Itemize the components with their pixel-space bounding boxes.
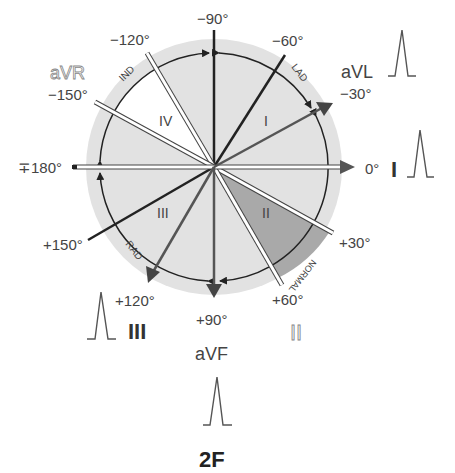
angle-label-minus-150: −150° — [48, 86, 88, 103]
figure-label: 2F — [199, 447, 225, 472]
lead-label-avf: aVF — [195, 344, 228, 364]
lead-label-avr: aVR — [50, 63, 85, 83]
lead-label-ii: II — [290, 320, 302, 345]
angle-label-plus-120: +120° — [115, 292, 155, 309]
qrs-lead-iii-icon — [87, 292, 116, 339]
quadrant-iv: IV — [159, 113, 173, 129]
hexaxial-reference-diagram: IV I III II IND LAD NORMAL RAD −90° −60°… — [0, 0, 455, 473]
angle-label-minus-120: −120° — [110, 31, 150, 48]
lead-label-i: I — [391, 157, 397, 182]
arrowhead-0 — [340, 160, 355, 174]
angle-label-plus-90: +90° — [196, 311, 227, 328]
qrs-avl-icon — [388, 30, 416, 76]
qrs-lead-i-icon — [407, 130, 434, 177]
quadrant-ii: II — [262, 205, 270, 221]
angle-label-plus-30: +30° — [339, 234, 370, 251]
angle-label-180: ∓180° — [18, 159, 62, 176]
angle-label-minus-90: −90° — [197, 10, 228, 27]
quadrant-i: I — [264, 113, 268, 129]
angle-label-plus-60: +60° — [272, 291, 303, 308]
angle-label-plus-150: +150° — [43, 236, 83, 253]
qrs-avf-icon — [203, 377, 232, 425]
quadrant-iii: III — [157, 205, 169, 221]
lead-label-avl: aVL — [341, 62, 373, 82]
angle-label-0: 0° — [365, 160, 379, 177]
angle-label-minus-30: −30° — [340, 85, 371, 102]
lead-label-iii: III — [128, 319, 146, 344]
angle-label-minus-60: −60° — [272, 32, 303, 49]
